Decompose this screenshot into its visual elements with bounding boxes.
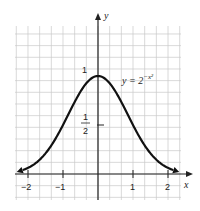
- x-axis-label: x: [183, 179, 189, 190]
- y-tick-label-half-denominator: 2: [83, 126, 88, 136]
- equation-exponent: −x²: [143, 73, 154, 81]
- equation-base: y = 2: [121, 75, 143, 86]
- x-tick-label-2: 2: [165, 182, 170, 192]
- y-axis-label: y: [103, 10, 109, 21]
- function-graph: y x −2 −1 1 2 1 1 2 y = 2−x²: [0, 0, 200, 211]
- equation-label: y = 2−x²: [121, 73, 154, 86]
- axes: [15, 13, 193, 200]
- x-tick-label-neg2: −2: [21, 182, 31, 192]
- y-tick-label-half-numerator: 1: [83, 112, 88, 122]
- x-tick-label-neg1: −1: [55, 182, 65, 192]
- y-tick-label-1: 1: [82, 65, 87, 75]
- x-tick-label-1: 1: [130, 182, 135, 192]
